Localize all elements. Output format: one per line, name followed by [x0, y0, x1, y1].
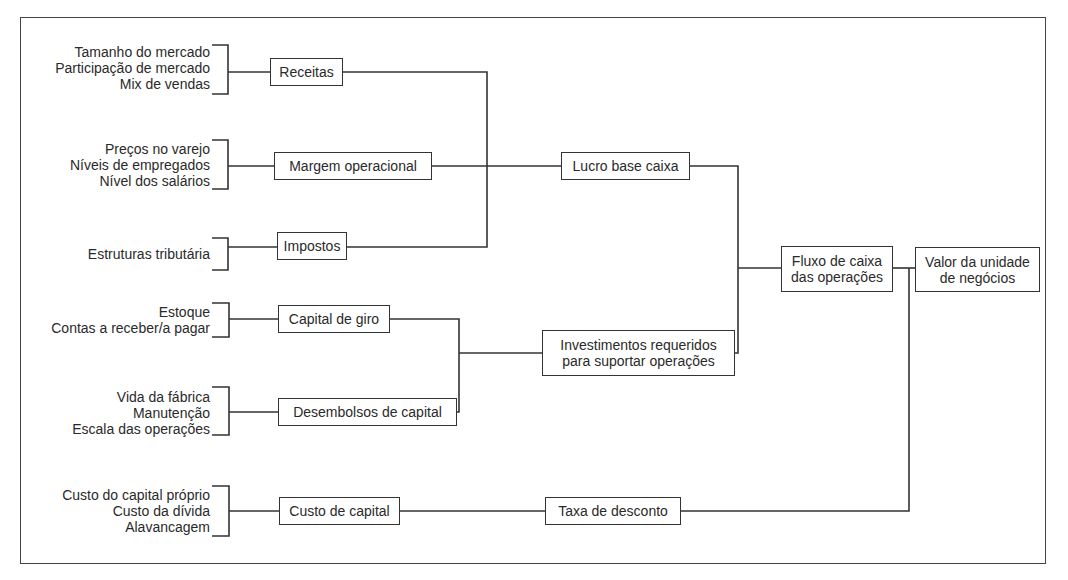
node-valor-da-unidade: Valor da unidade de negócios — [915, 247, 1040, 292]
node-margem-operacional: Margem operacional — [274, 152, 432, 180]
node-capital-de-giro: Capital de giro — [278, 305, 390, 333]
factors-desembolsos: Vida da fábrica Manutenção Escala das op… — [72, 389, 210, 437]
factor-label: Estruturas tributária — [88, 246, 210, 262]
factor-label: Preços no varejo — [70, 141, 210, 157]
factor-label: Contas a receber/a pagar — [51, 320, 210, 336]
node-lucro-base-caixa: Lucro base caixa — [561, 152, 690, 180]
factor-label: Tamanho do mercado — [55, 44, 210, 60]
factor-label: Nível dos salários — [70, 173, 210, 189]
bracket-custo-capital — [212, 486, 229, 536]
node-taxa-de-desconto: Taxa de desconto — [545, 497, 681, 525]
node-desembolsos-de-capital: Desembolsos de capital — [278, 398, 457, 426]
bracket-impostos — [212, 238, 228, 270]
factor-label: Escala das operações — [72, 421, 210, 437]
factor-label: Estoque — [51, 304, 210, 320]
bracket-desembolsos — [212, 387, 229, 435]
node-fluxo-de-caixa: Fluxo de caixa das operações — [781, 246, 893, 292]
factor-label: Custo da dívida — [62, 503, 210, 519]
factor-label: Participação de mercado — [55, 60, 210, 76]
factor-label: Alavancagem — [62, 519, 210, 535]
factor-label: Custo do capital próprio — [62, 487, 210, 503]
node-investimentos-requeridos: Investimentos requeridos para suportar o… — [542, 330, 735, 376]
factors-capital-giro: Estoque Contas a receber/a pagar — [51, 304, 210, 336]
bracket-margem — [212, 140, 228, 189]
factors-receitas: Tamanho do mercado Participação de merca… — [55, 44, 210, 92]
factor-label: Mix de vendas — [55, 76, 210, 92]
factors-impostos: Estruturas tributária — [88, 246, 210, 262]
node-custo-de-capital: Custo de capital — [279, 497, 400, 525]
bracket-receitas — [212, 45, 228, 94]
node-impostos: Impostos — [277, 232, 347, 260]
node-receitas: Receitas — [270, 58, 343, 86]
factor-label: Manutenção — [72, 405, 210, 421]
bracket-capital-giro — [212, 303, 229, 337]
factors-custo-capital: Custo do capital próprio Custo da dívida… — [62, 487, 210, 535]
factor-label: Vida da fábrica — [72, 389, 210, 405]
factors-margem: Preços no varejo Níveis de empregados Ní… — [70, 141, 210, 189]
factor-label: Níveis de empregados — [70, 157, 210, 173]
